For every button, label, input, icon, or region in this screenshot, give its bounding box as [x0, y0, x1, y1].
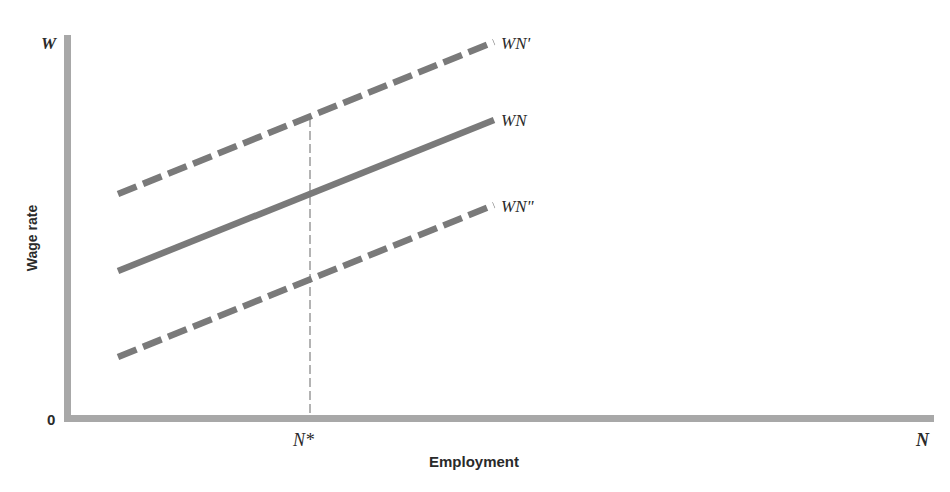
- wage-employment-chart: WN' WN WN" W Wage rate 0 N* Employment N: [0, 0, 950, 492]
- label-wn: WN: [501, 111, 528, 130]
- label-wn-prime: WN': [501, 34, 531, 53]
- y-axis: [64, 35, 71, 422]
- x-axis-symbol: N: [915, 430, 930, 450]
- origin-label: 0: [47, 411, 55, 428]
- x-axis: [64, 415, 934, 422]
- x-axis-title: Employment: [429, 453, 519, 470]
- curve-wn: [118, 120, 494, 271]
- y-axis-symbol: W: [41, 34, 58, 53]
- n-star-label: N*: [292, 430, 314, 450]
- curve-wn-prime: [118, 42, 494, 194]
- curve-wn-double-prime: [118, 205, 494, 357]
- y-axis-title: Wage rate: [24, 205, 40, 272]
- label-wn-double-prime: WN": [501, 197, 535, 216]
